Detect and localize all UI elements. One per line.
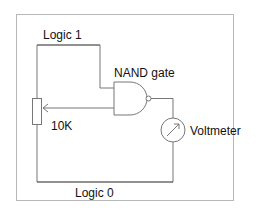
- logic-1-rail: [37, 45, 114, 88]
- circuit-diagram: Logic 1 10K NAND gate Voltmeter Logic 0: [0, 0, 260, 224]
- potentiometer: [33, 99, 42, 125]
- voltmeter-label: Voltmeter: [190, 124, 241, 138]
- nand-gate-label: NAND gate: [114, 66, 175, 80]
- voltmeter-icon: [161, 118, 185, 142]
- wiper-arrow-icon: [43, 104, 114, 112]
- logic-1-label: Logic 1: [43, 28, 82, 42]
- logic-0-label: Logic 0: [75, 186, 114, 200]
- nand-gate-icon: [114, 82, 151, 115]
- resistor-value-label: 10K: [51, 119, 72, 133]
